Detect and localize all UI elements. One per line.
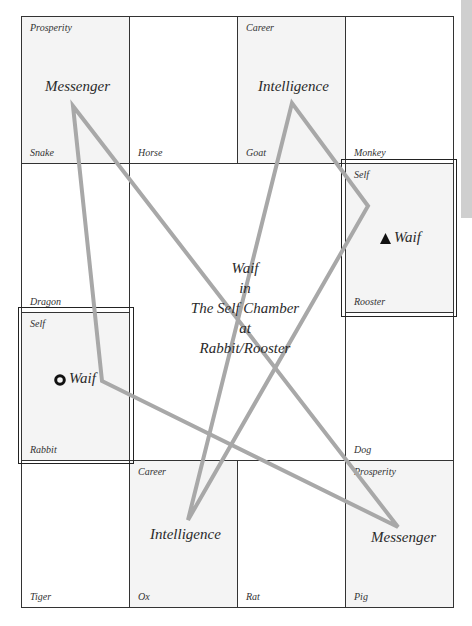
cell-dragon: Dragon [21,163,130,313]
cell-dog: Dog [345,312,454,461]
center-line-2: in [150,278,340,298]
side-tab [461,0,472,218]
palace-label: Career [138,466,166,477]
animal-label: Goat [246,147,266,158]
star-label-messenger-snake: Messenger [45,78,110,95]
animal-label: Pig [354,591,368,602]
animal-label: Dog [354,444,371,455]
animal-label: Snake [30,147,54,158]
star-label-messenger-pig: Messenger [371,529,436,546]
star-label-intelligence-ox: Intelligence [150,526,221,543]
animal-label: Monkey [354,147,386,158]
star-label-waif-rabbit: Waif [54,370,96,387]
star-label-intelligence-goat: Intelligence [258,78,329,95]
center-line-3: The Self Chamber [150,298,340,318]
waif-text: Waif [69,370,96,386]
cell-monkey: Monkey [345,16,454,164]
ring-marker-icon [54,374,66,386]
cell-tiger: Tiger [21,460,130,608]
animal-label: Ox [138,591,150,602]
palace-label: Prosperity [354,466,396,477]
center-line-1: Waif [150,258,340,278]
animal-label: Horse [138,147,162,158]
animal-label: Rat [246,591,260,602]
center-line-4: at [150,318,340,338]
animal-label: Tiger [30,591,51,602]
animal-label: Dragon [30,296,61,307]
center-caption: Waif in The Self Chamber at Rabbit/Roost… [150,258,340,358]
palace-label: Career [246,22,274,33]
center-line-5: Rabbit/Rooster [150,338,340,358]
palace-label: Prosperity [30,22,72,33]
cell-horse: Horse [129,16,238,164]
star-label-waif-rooster: Waif [380,229,421,246]
cell-rat: Rat [237,460,346,608]
triangle-marker-icon [380,233,391,244]
waif-text: Waif [394,229,421,245]
